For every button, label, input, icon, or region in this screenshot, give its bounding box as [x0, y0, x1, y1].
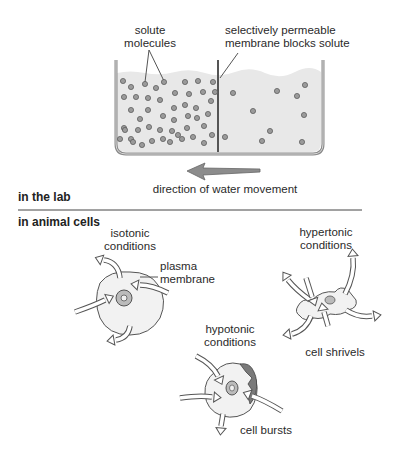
- solute-molecule: [184, 125, 189, 130]
- water-in-arrow: [324, 312, 328, 326]
- water-out-arrow: [345, 258, 353, 294]
- cell-bursts-label: cell bursts: [226, 424, 306, 437]
- solute-molecule: [149, 138, 154, 143]
- solute-molecule: [195, 78, 200, 83]
- solute-molecule: [153, 85, 158, 90]
- solute-molecule: [222, 134, 227, 139]
- solute-molecule: [160, 136, 165, 141]
- solute-molecule: [301, 112, 306, 117]
- water-in-arrow: [252, 396, 282, 411]
- solute-molecule: [135, 127, 140, 132]
- solute-molecule: [267, 128, 272, 133]
- solute-molecule: [209, 132, 214, 137]
- solute-molecule: [186, 91, 191, 96]
- solute-molecule: [171, 117, 176, 122]
- arrowhead-icon: [373, 310, 382, 321]
- water-in-arrow: [180, 396, 212, 398]
- solute-molecule: [212, 89, 217, 94]
- plasma-membrane-label: plasma membrane: [160, 260, 215, 286]
- solute-molecule: [182, 102, 187, 107]
- solute-molecule: [210, 79, 215, 84]
- nucleus: [325, 296, 335, 304]
- solute-molecule: [122, 127, 127, 132]
- solute-molecule: [190, 134, 195, 139]
- solute-molecule: [137, 116, 142, 121]
- solute-molecule: [201, 123, 206, 128]
- solute-label-line: molecules: [100, 37, 200, 50]
- isotonic-cell: [97, 272, 164, 335]
- solute-molecule: [142, 81, 147, 86]
- solute-molecule: [259, 138, 264, 143]
- water-in-arrow: [221, 414, 223, 426]
- solute-molecule: [302, 82, 307, 87]
- solute-molecule: [193, 105, 198, 110]
- arrowhead-icon: [282, 329, 291, 340]
- solute-molecule: [130, 139, 135, 144]
- solute-molecule: [128, 107, 133, 112]
- solute-label: solute molecules: [100, 24, 200, 50]
- solute-molecule: [145, 107, 150, 112]
- isotonic-label-line: isotonic: [90, 227, 170, 240]
- solute-molecule: [128, 84, 133, 89]
- solute-molecule: [299, 139, 304, 144]
- solute-molecule: [133, 94, 138, 99]
- solute-molecule: [117, 136, 122, 141]
- solute-molecule: [161, 79, 166, 84]
- solute-molecule: [120, 78, 125, 83]
- water-direction-arrow: [187, 163, 260, 180]
- hypotonic-label-line: hypotonic: [190, 323, 270, 336]
- membrane-label-line: selectively permeable: [225, 24, 350, 37]
- solute-molecule: [139, 142, 144, 147]
- solute-molecule: [194, 115, 199, 120]
- solute-molecule: [208, 98, 213, 103]
- solute-molecule: [200, 89, 205, 94]
- water-in-arrow: [306, 278, 312, 297]
- solute-molecule: [169, 128, 174, 133]
- solute-molecule: [182, 79, 187, 84]
- arrowhead-icon: [94, 253, 104, 265]
- solute-molecule: [146, 124, 151, 129]
- water-direction-label: direction of water movement: [140, 183, 310, 196]
- cells-section-label: in animal cells: [18, 215, 100, 229]
- solute-molecule: [294, 93, 299, 98]
- solute-molecule: [121, 94, 126, 99]
- arrowhead-icon: [106, 335, 115, 346]
- isotonic-condition-label: isotonic conditions: [90, 227, 170, 253]
- solute-molecule: [230, 90, 235, 95]
- membrane-label: selectively permeable membrane blocks so…: [225, 24, 350, 50]
- solute-molecule: [250, 108, 255, 113]
- solute-molecule: [205, 111, 210, 116]
- solute-molecule: [171, 105, 176, 110]
- water-in-arrow: [196, 356, 218, 376]
- solute-molecule: [179, 136, 184, 141]
- hypertonic-condition-label: hypertonic conditions: [286, 226, 366, 252]
- plasma-membrane-label-line: plasma: [160, 260, 215, 273]
- membrane-label-line: membrane blocks solute: [225, 37, 350, 50]
- solute-molecule: [274, 88, 279, 93]
- solute-molecule: [145, 95, 150, 100]
- water-out-arrow: [346, 310, 372, 316]
- cell-shrivels-label: cell shrivels: [295, 346, 375, 359]
- solute-molecule: [201, 140, 206, 145]
- solute-molecule: [185, 113, 190, 118]
- solute-label-line: solute: [100, 24, 200, 37]
- hypotonic-condition-label: hypotonic conditions: [190, 323, 270, 349]
- lab-section-label: in the lab: [18, 190, 71, 204]
- solute-molecule: [157, 97, 162, 102]
- hypotonic-label-line: conditions: [190, 336, 270, 349]
- solute-molecule: [167, 139, 172, 144]
- arrowhead-icon: [215, 428, 226, 436]
- hypertonic-label-line: hypertonic: [286, 226, 366, 239]
- hypertonic-label-line: conditions: [286, 239, 366, 252]
- solute-molecule: [175, 132, 180, 137]
- plasma-membrane-label-line: membrane: [160, 273, 215, 286]
- solute-molecule: [172, 90, 177, 95]
- water-out-arrow: [292, 316, 311, 334]
- solute-molecule: [160, 113, 165, 118]
- solute-molecule: [157, 127, 162, 132]
- isotonic-label-line: conditions: [90, 240, 170, 253]
